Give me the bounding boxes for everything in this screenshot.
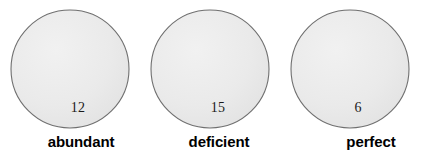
count-value-deficient: 15 xyxy=(150,101,270,115)
classification-group-deficient: 15 deficient xyxy=(140,0,282,164)
count-value-perfect: 6 xyxy=(290,101,410,115)
circle-abundant: 12 xyxy=(10,9,130,129)
number-classification-figure: 12 abundant 15 deficient xyxy=(0,0,426,164)
classification-group-perfect: 6 perfect xyxy=(280,0,422,164)
caption-perfect: perfect xyxy=(280,133,426,150)
caption-abundant: abundant xyxy=(0,133,152,150)
caption-deficient: deficient xyxy=(140,133,290,150)
classification-group-abundant: 12 abundant xyxy=(0,0,142,164)
circle-perfect: 6 xyxy=(290,9,410,129)
circle-deficient: 15 xyxy=(150,9,270,129)
count-value-abundant: 12 xyxy=(10,101,130,115)
